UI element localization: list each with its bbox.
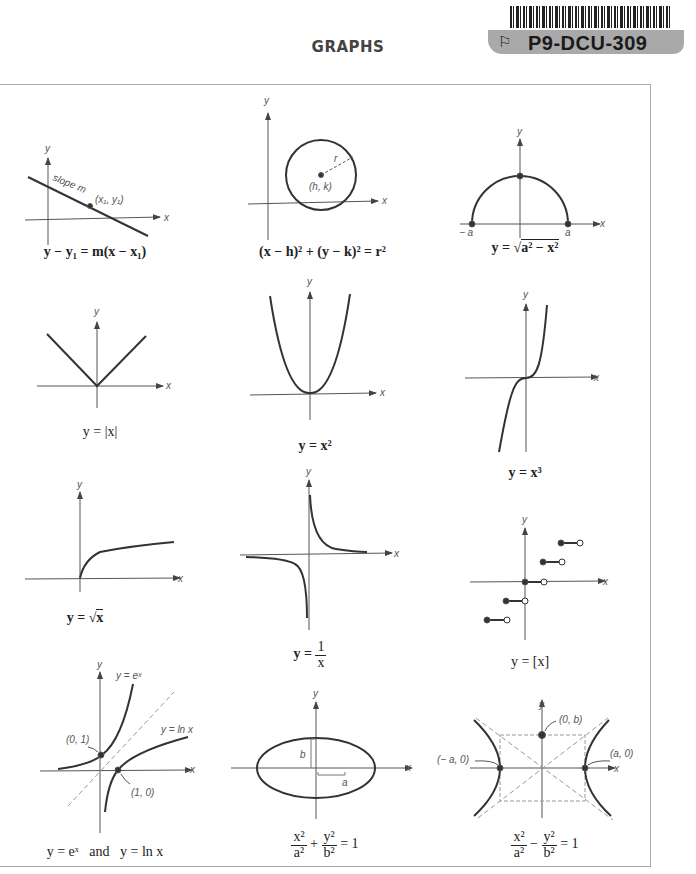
graph-sqrt [25,492,180,592]
graph-square [250,292,376,420]
a-label: a [342,777,348,788]
graph-ellipse [231,702,412,819]
point-label: (x₁, y₁) [95,194,124,205]
axis-label-x: x [165,380,172,391]
caption-sqrt: y = √x [60,610,110,626]
axis-label-x: x [613,763,620,774]
neg-a-0-label: (− a, 0) [437,754,469,765]
axis-label-y: y [96,659,103,670]
radius-label: r [334,153,338,164]
graph-floor [470,528,605,640]
caption-cube: y = x³ [500,465,550,481]
axis-label-x: x [189,764,196,775]
caption-line: y − y₁ = m(x − x₁) [30,244,160,260]
axis-label-y: y [76,479,83,490]
a-0-label: (a, 0) [610,748,633,759]
axis-label-x: x [177,573,184,584]
center-label: (h, k) [309,181,332,192]
graph-cube [465,304,598,452]
axis-label-y: y [44,143,51,154]
axis-label-y: y [93,306,100,317]
axis-label-x: x [379,387,386,398]
caption-reciprocal: y = 1x [285,640,335,670]
axis-label-x: x [163,212,170,223]
0-b-label: (0, b) [559,714,582,725]
axis-label-y: y [306,276,313,287]
caption-abs: y = |x| [75,424,125,440]
caption-floor: y = [x] [505,654,555,670]
neg-a-label: − a [459,227,474,238]
graph-semicircle [460,139,600,238]
point-0-1-label: (0, 1) [66,734,89,745]
graph-abs [37,322,163,408]
axis-label-y: y [305,466,312,477]
point-1-0-label: (1, 0) [131,787,154,798]
caption-square: y = x² [290,438,340,454]
graph-exp-log [40,672,192,833]
b-label: b [300,749,306,760]
axis-label-y: y [516,126,523,137]
axis-label-x: x [381,195,388,206]
axis-label-x: x [405,762,412,773]
caption-exp-log: y = eˣ and y = ln x [30,844,180,860]
graph-hyperbola [470,700,615,820]
axis-label-x: x [602,576,609,587]
axis-label-y: y [538,699,545,710]
axis-label-y: y [522,289,529,300]
caption-ellipse: x²a² + y²b² = 1 [280,830,370,860]
a-label: a [565,227,571,238]
caption-semicircle: y = √a² − x² [480,240,570,256]
axis-label-x: x [599,218,606,229]
log-label: y = ln x [160,724,194,735]
exp-label: y = eˣ [115,670,142,681]
graph-circle [248,113,378,240]
axis-label-y: y [312,688,319,699]
graph-line [25,158,160,245]
caption-hyperbola: x²a² − y²b² = 1 [500,830,590,860]
axis-label-x: x [593,372,600,383]
axis-label-y: y [263,95,270,106]
axis-label-y: y [521,514,528,525]
axis-label-x: x [393,548,400,559]
caption-circle: (x − h)² + (y − k)² = r² [240,244,405,260]
graph-reciprocal [240,480,392,630]
